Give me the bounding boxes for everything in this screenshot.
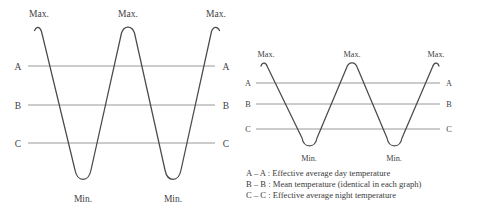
legend-key-b: B – B xyxy=(246,179,266,189)
left-axis-label-b-left: B xyxy=(15,101,21,111)
left-min-label-2: Min. xyxy=(164,194,182,204)
legend-text-c: Effective average night temperature xyxy=(273,190,396,200)
legend-row-b: B – B : Mean temperature (identical in e… xyxy=(246,179,486,190)
right-min-label-1: Min. xyxy=(301,154,317,163)
left-axis-label-b-right: B xyxy=(223,101,229,111)
left-axis-label-c-right: C xyxy=(223,139,229,149)
right-max-label-3: Max. xyxy=(427,50,444,59)
right-max-label-1: Max. xyxy=(257,50,274,59)
legend-key-a: A – A xyxy=(246,168,266,178)
legend-separator-b: : xyxy=(266,179,273,189)
left-axis-label-a-left: A xyxy=(15,62,22,72)
right-graph: A B C A B C Max. Max. Max. Min. Min. xyxy=(245,50,452,163)
left-min-label-1: Min. xyxy=(74,194,92,204)
left-axis-label-c-left: C xyxy=(15,139,21,149)
left-max-label-3: Max. xyxy=(206,9,226,19)
legend-separator-c: : xyxy=(266,190,273,200)
right-axis-label-b-right: B xyxy=(446,100,452,109)
legend-key-c: C – C xyxy=(246,190,266,200)
right-axis-label-c-right: C xyxy=(446,125,452,134)
legend-text-b: Mean temperature (identical in each grap… xyxy=(273,179,422,189)
legend-row-c: C – C : Effective average night temperat… xyxy=(246,190,486,201)
left-temperature-curve xyxy=(35,27,220,179)
legend: A – A : Effective average day temperatur… xyxy=(246,168,486,202)
left-max-label-1: Max. xyxy=(29,9,49,19)
right-axis-label-a-right: A xyxy=(446,79,452,88)
right-axis-label-a-left: A xyxy=(245,79,251,88)
right-axis-label-b-left: B xyxy=(245,100,251,109)
left-axis-label-a-right: A xyxy=(223,62,230,72)
right-axis-label-c-left: C xyxy=(245,125,251,134)
right-min-label-2: Min. xyxy=(386,154,402,163)
legend-row-a: A – A : Effective average day temperatur… xyxy=(246,168,486,179)
left-max-label-2: Max. xyxy=(118,9,138,19)
legend-text-a: Effective average day temperature xyxy=(272,168,390,178)
right-max-label-2: Max. xyxy=(343,50,360,59)
left-graph: A B C A B C Max. Max. Max. Min. Min. xyxy=(15,9,230,204)
